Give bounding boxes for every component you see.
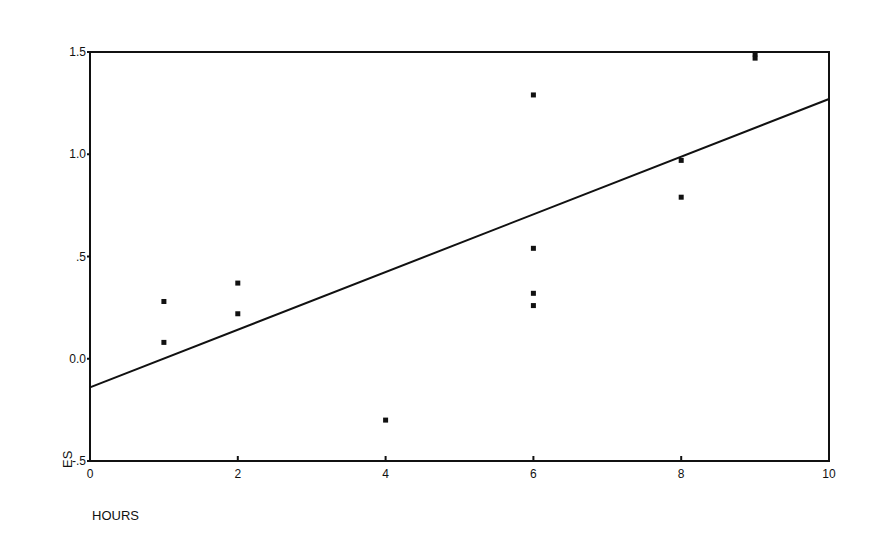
x-tick-label: 10 bbox=[822, 467, 836, 481]
data-point-marker bbox=[531, 303, 536, 308]
y-axis-title: ES bbox=[60, 450, 75, 468]
plot-frame bbox=[90, 52, 829, 461]
x-tick-label: 6 bbox=[530, 467, 537, 481]
x-axis-title: HOURS bbox=[92, 508, 139, 523]
regression-line bbox=[90, 99, 829, 387]
y-tick-label: 1.0 bbox=[69, 147, 86, 161]
data-point-marker bbox=[679, 158, 684, 163]
plot-border bbox=[90, 52, 829, 461]
data-point-marker bbox=[679, 195, 684, 200]
y-tick-label: 1.5 bbox=[69, 45, 86, 59]
data-point-marker bbox=[161, 340, 166, 345]
data-point-marker bbox=[531, 291, 536, 296]
data-point-marker bbox=[235, 281, 240, 286]
axis-ticks: 0246810-.50.0.51.01.5 bbox=[69, 45, 836, 481]
y-tick-label: .5 bbox=[76, 250, 86, 264]
scatter-chart: 0246810-.50.0.51.01.5 HOURS ES bbox=[0, 0, 878, 553]
data-point-marker bbox=[161, 299, 166, 304]
y-tick-label: 0.0 bbox=[69, 352, 86, 366]
x-tick-label: 8 bbox=[678, 467, 685, 481]
data-point-marker bbox=[383, 418, 388, 423]
data-point-marker bbox=[235, 311, 240, 316]
x-tick-label: 4 bbox=[382, 467, 389, 481]
data-point-marker bbox=[753, 56, 758, 61]
regression-line-path bbox=[90, 99, 829, 387]
x-tick-label: 2 bbox=[234, 467, 241, 481]
data-point-marker bbox=[531, 246, 536, 251]
data-points bbox=[161, 52, 757, 423]
x-tick-label: 0 bbox=[87, 467, 94, 481]
data-point-marker bbox=[531, 92, 536, 97]
